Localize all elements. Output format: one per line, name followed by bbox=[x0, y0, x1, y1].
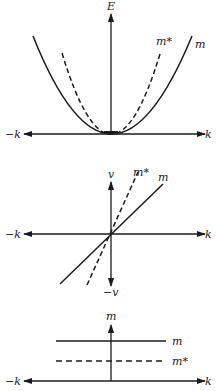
line-mstar-dashed bbox=[87, 172, 138, 285]
velocity-axis-label: v bbox=[108, 168, 115, 181]
neg-k-label: −k bbox=[5, 128, 21, 141]
line-mstar-label: m* bbox=[172, 355, 188, 368]
neg-velocity-label: −v bbox=[103, 286, 119, 299]
energy-axis-label: E bbox=[106, 0, 115, 13]
bottom-blob bbox=[104, 131, 118, 134]
pos-k-label: k bbox=[205, 375, 212, 388]
pos-k-label: k bbox=[205, 228, 212, 241]
neg-k-label: −k bbox=[5, 375, 21, 388]
curve-mstar-label: m* bbox=[156, 35, 172, 48]
energy-panel: E −k k m* m bbox=[5, 0, 212, 141]
mass-panel: m −k k m m* bbox=[5, 310, 212, 388]
line-m-label: m bbox=[172, 335, 182, 348]
curve-m-solid bbox=[33, 36, 192, 134]
mass-axis-label: m bbox=[106, 310, 116, 323]
line-mstar-label: m* bbox=[133, 166, 149, 179]
neg-k-label: −k bbox=[5, 228, 21, 241]
line-m-label: m bbox=[158, 171, 168, 184]
effective-mass-diagram: E −k k m* m v −v −k k m* m m −k k m m* bbox=[0, 0, 216, 391]
velocity-panel: v −v −k k m* m bbox=[5, 166, 212, 299]
curve-m-label: m bbox=[195, 38, 205, 51]
pos-k-label: k bbox=[205, 128, 212, 141]
